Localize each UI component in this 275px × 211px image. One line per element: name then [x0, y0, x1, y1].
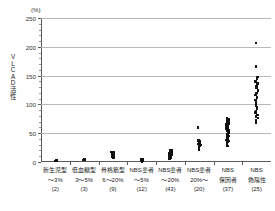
x-tick-4: [156, 162, 157, 165]
category-name: 新生児型: [41, 166, 70, 176]
category-count: (25): [242, 185, 271, 195]
y-tick-label-250: 250: [26, 15, 36, 22]
category-range: 保因者: [214, 176, 243, 186]
x-category-label-5: NBS患者20%～(20): [185, 166, 214, 195]
category-count: (2): [41, 185, 70, 195]
category-name: 低血糖型: [70, 166, 99, 176]
y-tick-50: [38, 133, 41, 134]
data-point: [140, 158, 142, 160]
y-minor-tick-20: [39, 150, 41, 151]
gridline-200: [41, 47, 271, 48]
y-tick-label-50: 50: [29, 130, 36, 137]
x-category-label-6: NBS保因者(37): [214, 166, 243, 195]
category-count: (20): [185, 185, 214, 195]
data-point: [197, 126, 199, 128]
y-tick-label-100: 100: [26, 101, 36, 108]
category-range: 偽陽性: [242, 176, 271, 186]
y-minor-tick-40: [39, 139, 41, 140]
y-minor-tick-110: [39, 99, 41, 100]
category-range: ～20%: [156, 176, 185, 186]
category-name: NBS: [242, 166, 271, 176]
data-point: [255, 65, 257, 67]
x-category-label-0: 新生児型～3%(2): [41, 166, 70, 195]
data-point: [254, 80, 256, 82]
category-range: ～5%: [127, 176, 156, 186]
data-point: [255, 42, 257, 44]
gridline-250: [41, 18, 271, 19]
data-point: [255, 122, 257, 124]
data-point: [255, 92, 257, 94]
data-point: [55, 159, 57, 161]
y-minor-tick-120: [39, 93, 41, 94]
data-point: [257, 89, 259, 91]
data-point: [256, 82, 258, 84]
x-category-label-7: NBS偽陽性(25): [242, 166, 271, 195]
category-range: 3～5%: [70, 176, 99, 186]
category-count: (37): [214, 185, 243, 195]
vlcad-activity-chart: (%) V L C A D 活 性 050100150200250 新生児型～3…: [0, 0, 275, 211]
x-tick-5: [185, 162, 186, 165]
data-point: [255, 85, 257, 87]
data-point: [256, 78, 258, 80]
y-axis-title-c6: 性: [8, 94, 18, 101]
category-name: NBS患者: [185, 166, 214, 176]
y-minor-tick-190: [39, 53, 41, 54]
gridline-50: [41, 133, 271, 134]
y-tick-150: [38, 76, 41, 77]
y-tick-label-0: 0: [33, 159, 36, 166]
category-count: (9): [99, 185, 128, 195]
x-category-label-2: 骨格筋型6～20%(9): [99, 166, 128, 195]
data-point: [197, 139, 199, 141]
y-minor-tick-60: [39, 127, 41, 128]
y-axis-line: [41, 18, 42, 162]
y-minor-tick-210: [39, 41, 41, 42]
y-minor-tick-80: [39, 116, 41, 117]
y-minor-tick-220: [39, 35, 41, 36]
y-axis-unit-label: (%): [31, 6, 41, 13]
category-range: 6～20%: [99, 176, 128, 186]
data-point: [110, 151, 112, 153]
category-name: 骨格筋型: [99, 166, 128, 176]
y-axis-title: V L C A D 活 性: [8, 54, 18, 100]
x-category-label-1: 低血糖型3～5%(3): [70, 166, 99, 195]
x-tick-6: [214, 162, 215, 165]
y-tick-250: [38, 18, 41, 19]
gridline-150: [41, 76, 271, 77]
y-minor-tick-30: [39, 145, 41, 146]
y-tick-200: [38, 47, 41, 48]
x-tick-1: [70, 162, 71, 165]
y-tick-0: [38, 162, 41, 163]
category-count: (3): [70, 185, 99, 195]
category-name: NBS患者: [127, 166, 156, 176]
x-tick-2: [99, 162, 100, 165]
x-axis-category-labels: 新生児型～3%(2)低血糖型3～5%(3)骨格筋型6～20%(9)NBS患者～5…: [41, 166, 271, 208]
data-point: [257, 117, 259, 119]
plot-area: 050100150200250: [41, 18, 271, 162]
x-tick-3: [127, 162, 128, 165]
y-minor-tick-180: [39, 58, 41, 59]
y-minor-tick-130: [39, 87, 41, 88]
y-minor-tick-140: [39, 81, 41, 82]
category-range: ～3%: [41, 176, 70, 186]
gridline-100: [41, 104, 271, 105]
data-point: [256, 108, 258, 110]
y-tick-100: [38, 104, 41, 105]
data-point: [256, 114, 258, 116]
category-count: (43): [156, 185, 185, 195]
y-minor-tick-240: [39, 24, 41, 25]
y-tick-label-150: 150: [26, 72, 36, 79]
x-tick-7: [242, 162, 243, 165]
data-point: [256, 76, 258, 78]
y-minor-tick-90: [39, 110, 41, 111]
y-tick-label-200: 200: [26, 43, 36, 50]
category-count: (12): [127, 185, 156, 195]
category-name: NBS患者: [156, 166, 185, 176]
data-point: [254, 99, 256, 101]
x-category-label-4: NBS患者～20%(43): [156, 166, 185, 195]
category-name: NBS: [214, 166, 243, 176]
category-range: 20%～: [185, 176, 214, 186]
y-minor-tick-230: [39, 30, 41, 31]
y-minor-tick-160: [39, 70, 41, 71]
data-point: [256, 96, 258, 98]
y-minor-tick-70: [39, 122, 41, 123]
